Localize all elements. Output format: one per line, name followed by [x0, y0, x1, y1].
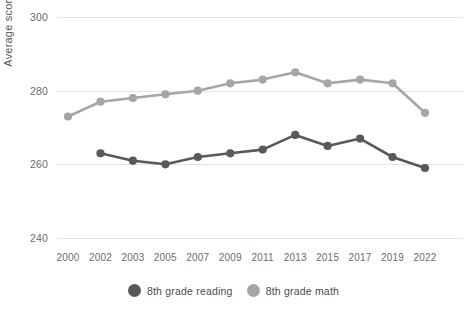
gridline	[57, 17, 463, 18]
data-point	[64, 112, 72, 120]
data-point	[291, 131, 299, 139]
x-axis-tick-label: 2022	[413, 252, 436, 263]
data-point	[96, 98, 104, 106]
y-axis-title: Average score	[2, 0, 14, 90]
data-point	[291, 68, 299, 76]
data-point	[356, 135, 364, 143]
x-axis-tick-label: 2013	[284, 252, 307, 263]
y-axis-tick-label: 300	[30, 11, 48, 23]
x-axis-tick-label: 2015	[316, 252, 339, 263]
gridline	[57, 238, 463, 239]
x-axis-tick-label: 2009	[219, 252, 242, 263]
x-axis-tick-label: 2003	[121, 252, 144, 263]
data-point	[356, 76, 364, 84]
data-point	[96, 149, 104, 157]
plot-area	[0, 0, 467, 310]
y-axis-tick-label: 260	[30, 158, 48, 170]
legend-item[interactable]: 8th grade math	[247, 284, 339, 297]
legend-label: 8th grade math	[266, 285, 339, 297]
data-point	[226, 79, 234, 87]
data-point	[421, 109, 429, 117]
chart-legend: 8th grade reading8th grade math	[0, 284, 467, 297]
data-point	[388, 153, 396, 161]
data-point	[129, 94, 137, 102]
data-point	[388, 79, 396, 87]
legend-swatch-icon	[128, 284, 141, 297]
gridline	[57, 164, 463, 165]
series-line	[68, 72, 425, 116]
gridline	[57, 91, 463, 92]
data-point	[226, 149, 234, 157]
data-point	[324, 142, 332, 150]
data-point	[259, 146, 267, 154]
x-axis-tick-label: 2007	[186, 252, 209, 263]
chart-container: Average score 300280260240 2000200220032…	[0, 0, 467, 310]
series-line	[101, 135, 426, 168]
x-axis-tick-label: 2017	[349, 252, 372, 263]
x-axis-tick-label: 2011	[252, 252, 274, 263]
y-axis-tick-label: 280	[30, 85, 48, 97]
data-point	[194, 153, 202, 161]
data-point	[324, 79, 332, 87]
y-axis-tick-label: 240	[30, 232, 48, 244]
x-axis-tick-label: 2000	[56, 252, 79, 263]
x-axis-tick-label: 2005	[154, 252, 177, 263]
legend-item[interactable]: 8th grade reading	[128, 284, 233, 297]
legend-swatch-icon	[247, 284, 260, 297]
x-axis-tick-label: 2019	[381, 252, 404, 263]
data-point	[259, 76, 267, 84]
legend-label: 8th grade reading	[147, 285, 233, 297]
x-axis-tick-label: 2002	[89, 252, 112, 263]
